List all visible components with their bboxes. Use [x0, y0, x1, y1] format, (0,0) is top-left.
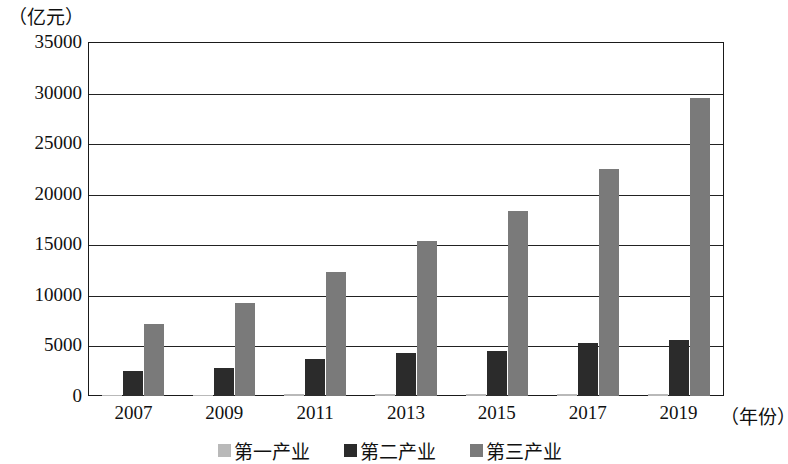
gridline	[89, 195, 723, 196]
y-axis-tick-label: 35000	[2, 32, 82, 51]
y-axis-tick-labels: 05000100001500020000250003000035000	[0, 42, 82, 396]
x-axis-tick-label: 2009	[189, 402, 259, 424]
y-axis-unit-label: （亿元）	[8, 2, 84, 29]
legend-item: 第三产业	[470, 437, 562, 464]
chart-legend: 第一产业第二产业第三产业	[0, 437, 779, 464]
legend-label: 第二产业	[360, 437, 436, 464]
y-axis-tick-label: 15000	[2, 234, 82, 253]
x-axis-tick-label: 2011	[280, 402, 350, 424]
gridline	[89, 296, 723, 297]
x-axis-tick-label: 2019	[644, 402, 714, 424]
y-axis-tick-label: 25000	[2, 133, 82, 152]
y-axis-tick-label: 5000	[2, 335, 82, 354]
gridline	[89, 245, 723, 246]
x-axis-tick-label: 2015	[462, 402, 532, 424]
gridline	[89, 94, 723, 95]
gridline	[89, 346, 723, 347]
legend-label: 第三产业	[486, 437, 562, 464]
x-axis-tick-labels: 2007200920112013201520172019	[88, 398, 724, 428]
y-axis-tick-label: 20000	[2, 184, 82, 203]
y-axis-tick-label: 30000	[2, 83, 82, 102]
y-axis-tick-label: 10000	[2, 285, 82, 304]
legend-swatch-icon	[344, 444, 357, 457]
legend-item: 第一产业	[218, 437, 310, 464]
gridline	[89, 144, 723, 145]
x-axis-title: （年份）	[720, 402, 788, 429]
x-axis-tick-label: 2007	[98, 402, 168, 424]
x-axis-tick-label: 2017	[553, 402, 623, 424]
legend-swatch-icon	[470, 444, 483, 457]
legend-item: 第二产业	[344, 437, 436, 464]
legend-swatch-icon	[218, 444, 231, 457]
x-axis-tick-label: 2013	[371, 402, 441, 424]
plot-area	[88, 42, 724, 396]
legend-label: 第一产业	[234, 437, 310, 464]
y-axis-tick-label: 0	[2, 386, 82, 405]
